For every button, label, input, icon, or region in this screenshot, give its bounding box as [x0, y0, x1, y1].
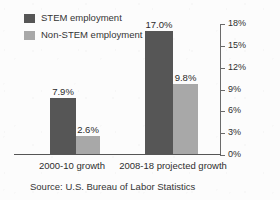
category-label-2008-18: 2008-18 projected growth — [112, 160, 234, 171]
y-tick-label: 9% — [228, 84, 241, 95]
y-tick-mark — [220, 90, 225, 91]
bar-stem-2008-18: 17.0% — [145, 24, 173, 155]
y-tick-label: 3% — [228, 127, 241, 138]
y-tick-mark — [220, 24, 225, 25]
legend-swatch-stem — [24, 14, 35, 23]
y-tick-label: 12% — [228, 62, 246, 73]
category-label-2000-10: 2000-10 growth — [22, 160, 122, 171]
bar-group-2000-10: 7.9% 2.6% — [50, 24, 100, 155]
bar-chart: STEM employment Non-STEM employment 7.9%… — [0, 0, 280, 200]
bar-non-stem-2008-18: 9.8% — [173, 24, 198, 155]
bar-value-stem-2000-10: 7.9% — [52, 87, 74, 97]
bar-value-stem-2008-18: 17.0% — [146, 20, 173, 30]
bar-non-stem-2000-10: 2.6% — [76, 24, 100, 155]
legend-label-stem: STEM employment — [41, 13, 122, 23]
y-tick-mark — [220, 111, 225, 112]
source-note: Source: U.S. Bureau of Labor Statistics — [30, 181, 195, 192]
x-axis-baseline — [14, 154, 221, 155]
y-tick-label: 18% — [228, 18, 246, 29]
y-tick-mark — [220, 133, 225, 134]
y-tick-mark — [220, 46, 225, 47]
y-tick-mark — [220, 68, 225, 69]
y-tick-label: 6% — [228, 105, 241, 116]
y-tick-label: 15% — [228, 40, 246, 51]
bar-value-non-stem-2008-18: 9.8% — [175, 73, 197, 83]
bar-stem-2000-10: 7.9% — [50, 24, 76, 155]
y-tick-label: 0% — [228, 149, 241, 160]
legend-item-stem: STEM employment — [24, 11, 142, 25]
y-tick-mark — [220, 155, 225, 156]
bar-group-2008-18: 17.0% 9.8% — [145, 24, 198, 155]
bar-value-non-stem-2000-10: 2.6% — [77, 125, 99, 135]
plot-area: 7.9% 2.6% 17.0% 9.8% — [14, 24, 220, 155]
